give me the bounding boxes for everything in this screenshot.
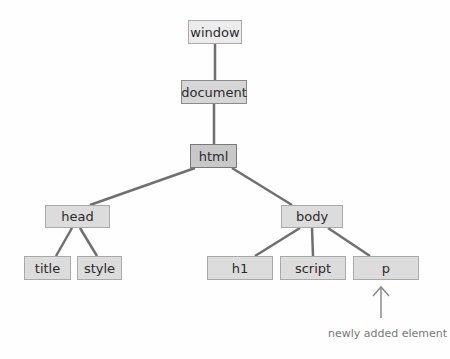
node-style: style <box>77 256 122 280</box>
node-html: html <box>190 144 237 168</box>
edge-body-p <box>328 228 370 256</box>
edge-html-head <box>90 168 195 205</box>
node-p: p <box>353 256 419 280</box>
up-arrow-icon <box>373 287 389 318</box>
node-label: p <box>382 261 390 276</box>
node-script: script <box>280 256 346 280</box>
node-label: style <box>84 261 115 276</box>
node-document: document <box>181 80 247 104</box>
node-label: document <box>181 85 247 100</box>
edge-head-title <box>56 228 72 256</box>
edge-html-body <box>232 168 292 205</box>
node-head: head <box>45 205 110 228</box>
node-body: body <box>281 205 343 228</box>
node-label: html <box>199 149 229 164</box>
node-label: h1 <box>232 261 249 276</box>
edge-head-style <box>80 228 97 256</box>
node-label: head <box>61 209 93 224</box>
annotation-label: newly added element <box>328 327 447 340</box>
node-label: title <box>35 261 60 276</box>
node-label: window <box>190 25 239 40</box>
node-h1: h1 <box>207 256 273 280</box>
edge-body-h1 <box>255 228 300 256</box>
node-label: body <box>296 209 328 224</box>
edge-body-script <box>312 228 313 256</box>
node-label: script <box>295 261 331 276</box>
node-window: window <box>188 20 242 44</box>
tree-edges <box>0 0 450 359</box>
node-title: title <box>24 256 71 280</box>
